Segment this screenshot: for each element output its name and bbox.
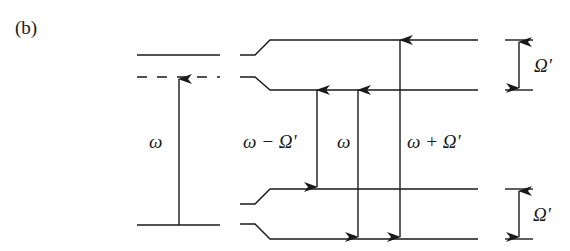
upper-split-levels [240,40,478,90]
lower-splitting-label: Ω' [533,204,552,225]
upper-splitting-bracket: Ω' [505,40,553,90]
lower-split-levels [240,189,478,239]
upper-splitting-label: Ω' [534,55,553,76]
lower-splitting-bracket: Ω' [505,189,552,239]
lower-split-top-level [240,189,478,204]
upper-split-top-level [240,40,478,55]
upper-split-bottom-level [240,77,478,90]
excitation-label: ω [149,131,162,152]
energy-level-diagram: (b) ω ω − Ω' ω ω + Ω' Ω' Ω' [0,0,570,251]
panel-label: (b) [15,17,37,39]
label-omega-plus-omega-prime: ω + Ω' [407,131,461,152]
label-omega-mid: ω [337,131,350,152]
lower-split-bottom-level [240,224,478,239]
left-level-scheme: ω [137,55,220,225]
label-omega-minus-omega-prime: ω − Ω' [243,131,297,152]
